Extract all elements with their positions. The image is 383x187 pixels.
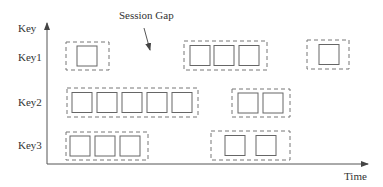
session-window-key3-2 xyxy=(211,131,290,160)
event-box xyxy=(95,136,115,156)
event-box xyxy=(225,136,245,156)
event-box xyxy=(239,46,259,66)
key1-label: Key1 xyxy=(18,51,42,63)
key2-label: Key2 xyxy=(18,96,42,108)
y-axis-label: Key xyxy=(18,22,37,34)
event-box xyxy=(120,136,140,156)
event-box xyxy=(256,136,276,156)
sessions-layer xyxy=(66,40,349,160)
key3-label: Key3 xyxy=(18,139,42,151)
event-box xyxy=(97,93,117,113)
event-box xyxy=(238,93,258,113)
event-box xyxy=(147,93,167,113)
x-axis-label: Time xyxy=(344,170,367,182)
session-window-diagram: Key Time Session Gap Key1 Key2 Key3 xyxy=(0,0,383,187)
session-gap-label: Session Gap xyxy=(119,9,174,21)
event-box xyxy=(190,46,210,66)
event-box xyxy=(263,93,283,113)
session-gap-arrow-icon xyxy=(144,28,150,50)
event-box xyxy=(72,93,92,113)
event-box xyxy=(77,46,97,66)
event-box xyxy=(122,93,142,113)
event-box xyxy=(214,46,234,66)
event-box xyxy=(172,93,192,113)
event-box xyxy=(70,136,90,156)
event-box xyxy=(319,45,339,65)
